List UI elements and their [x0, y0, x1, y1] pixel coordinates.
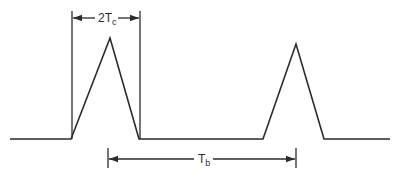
period-label: Tb: [198, 152, 210, 168]
waveform-line: [10, 38, 390, 139]
pulse-waveform-diagram: 2Tc Tb: [0, 0, 397, 177]
pulse-width-label: 2Tc: [98, 11, 117, 27]
